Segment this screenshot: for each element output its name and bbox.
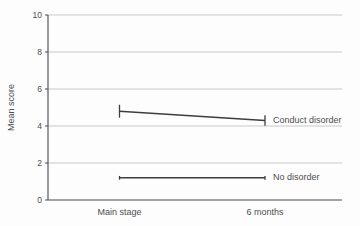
series-line-0 <box>120 111 266 120</box>
chart-figure: 0246810Mean scoreMain stage6 monthsCondu… <box>0 0 360 226</box>
x-category-label-1: 6 months <box>246 207 284 217</box>
y-tick-label-4: 4 <box>37 121 42 131</box>
y-tick-label-2: 2 <box>37 158 42 168</box>
y-tick-label-0: 0 <box>37 195 42 205</box>
series-label-1: No disorder <box>273 172 320 182</box>
y-tick-label-6: 6 <box>37 84 42 94</box>
series-label-0: Conduct disorder <box>273 115 342 125</box>
y-axis-title: Mean score <box>6 84 16 131</box>
y-tick-label-8: 8 <box>37 47 42 57</box>
y-tick-label-10: 10 <box>33 10 43 20</box>
x-category-label-0: Main stage <box>97 207 141 217</box>
mean-score-line-chart: 0246810Mean scoreMain stage6 monthsCondu… <box>0 0 360 226</box>
